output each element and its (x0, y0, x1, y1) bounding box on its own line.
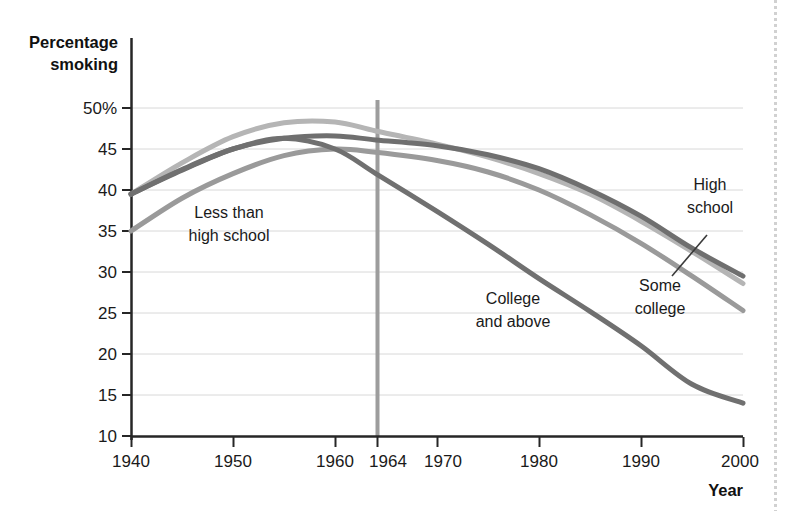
x-tick-label-1970: 1970 (424, 452, 462, 471)
y-tick-label-40: 40 (98, 181, 117, 200)
x-tick-label-1950: 1950 (214, 452, 252, 471)
x-axis-ticks (132, 437, 744, 447)
y-tick-label-30: 30 (98, 263, 117, 282)
y-tick-label-45: 45 (98, 140, 117, 159)
y-tick-label-25: 25 (98, 304, 117, 323)
chart-figure: 50% 45 40 35 30 25 20 15 10 1940 1950 19… (0, 0, 802, 511)
x-tick-label-2000: 2000 (721, 452, 759, 471)
y-tick-label-15: 15 (98, 386, 117, 405)
x-tick-label-1960: 1960 (316, 452, 354, 471)
annotation-some-college-line1: Some (639, 277, 681, 294)
annotation-college-and-above-line1: College (486, 290, 540, 307)
annotation-some-college-line2: college (635, 300, 686, 317)
annotation-high-school-line1: High (694, 176, 727, 193)
y-axis-title-line1: Percentage (29, 33, 118, 51)
y-tick-label-50: 50% (83, 99, 117, 118)
annotation-less-than-high-school-line2: high school (189, 227, 270, 244)
x-tick-label-1990: 1990 (622, 452, 660, 471)
y-axis-title-line2: smoking (50, 55, 118, 73)
smoking-trend-line-chart: 50% 45 40 35 30 25 20 15 10 1940 1950 19… (0, 0, 802, 511)
annotation-high-school-line2: school (687, 199, 733, 216)
x-tick-label-1940: 1940 (112, 452, 150, 471)
x-axis-title: Year (708, 481, 743, 499)
y-tick-label-35: 35 (98, 222, 117, 241)
x-tick-label-1980: 1980 (520, 452, 558, 471)
y-tick-label-10: 10 (98, 427, 117, 446)
series-lines (131, 121, 743, 403)
annotation-college-and-above-line2: and above (476, 313, 551, 330)
right-edge-dotted-rule (774, 0, 777, 511)
annotation-less-than-high-school-line1: Less than (194, 204, 263, 221)
x-tick-label-1964: 1964 (369, 452, 407, 471)
y-tick-label-20: 20 (98, 345, 117, 364)
